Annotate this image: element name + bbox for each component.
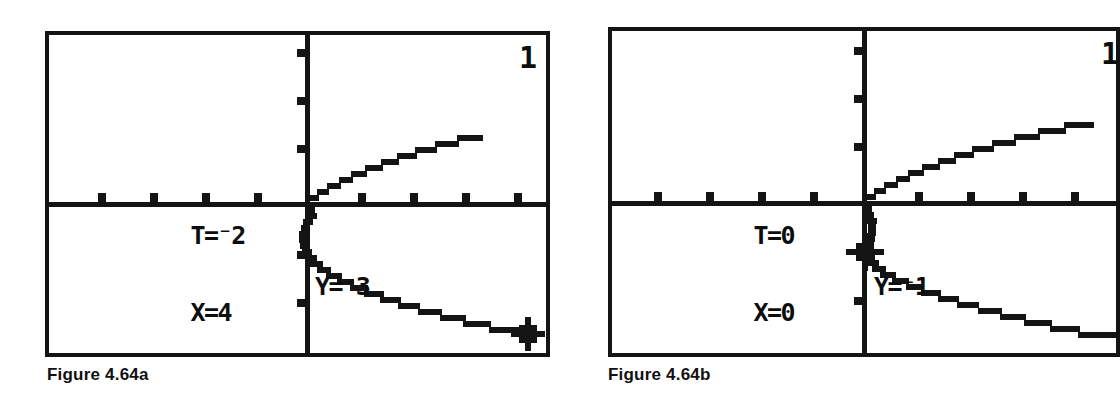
- screen-corner-number-a: 1: [519, 43, 536, 73]
- y-axis-ticks: [297, 49, 306, 307]
- graph-plot-a: [49, 35, 546, 353]
- x-axis: [49, 202, 546, 207]
- figure-caption-b: Figure 4.64b: [608, 365, 711, 385]
- y-axis-ticks: [854, 47, 863, 305]
- screen-corner-number-b: 1: [1101, 39, 1118, 69]
- graph-svg-a: [49, 35, 546, 353]
- figure-4-64a: 1 T=⁻2 X=4 Y=⁻3 Figure 4.64a: [45, 31, 550, 357]
- calculator-screen-a: 1 T=⁻2 X=4 Y=⁻3: [45, 31, 550, 357]
- parabola-curve: [862, 122, 1116, 338]
- calculator-screen-b: 1 T=0 X=0 Y=⁻1: [608, 27, 1120, 357]
- graph-svg-b: [612, 31, 1116, 353]
- graph-plot-b: [612, 31, 1116, 353]
- figure-4-64b: 1 T=0 X=0 Y=⁻1 Figure 4.64b: [608, 27, 1120, 357]
- figure-caption-a: Figure 4.64a: [47, 365, 149, 385]
- parabola-curve: [299, 135, 519, 333]
- trace-cursor: [511, 317, 545, 351]
